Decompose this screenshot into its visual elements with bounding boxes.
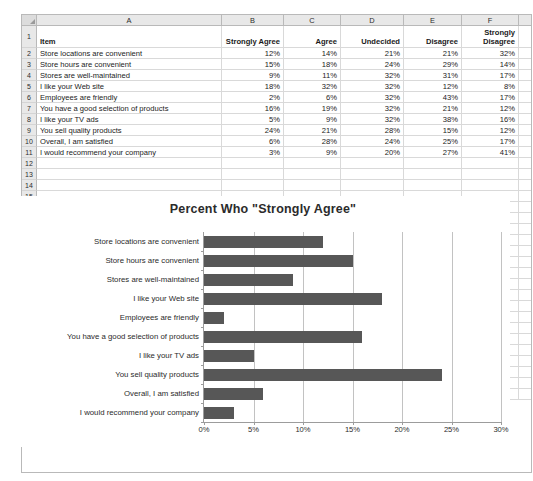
cell-d3[interactable]: 24% (341, 59, 404, 70)
row-header-7[interactable]: 7 (22, 103, 37, 114)
cell-c2[interactable]: 14% (284, 48, 341, 59)
cell-d9[interactable]: 28% (341, 125, 404, 136)
row-header-2[interactable]: 2 (22, 48, 37, 59)
cell-b5[interactable]: 18% (222, 81, 284, 92)
cell-g30[interactable] (519, 356, 532, 367)
cell-g29[interactable] (519, 345, 532, 356)
cell-d8[interactable]: 32% (341, 114, 404, 125)
cell-c7[interactable]: 19% (284, 103, 341, 114)
cell-b1[interactable]: Strongly Agree (222, 26, 284, 48)
cell-a5[interactable]: I like your Web site (37, 81, 222, 92)
cell-a3[interactable]: Store hours are convenient (37, 59, 222, 70)
cell-g22[interactable] (519, 268, 532, 279)
cell-d14[interactable] (341, 180, 404, 191)
chart-bar[interactable] (204, 388, 263, 400)
column-header-e[interactable]: E (404, 15, 462, 25)
cell-b14[interactable] (222, 180, 284, 191)
row-header-6[interactable]: 6 (22, 92, 37, 103)
column-header-b[interactable]: B (222, 15, 284, 25)
row-header-1[interactable]: 1 (22, 26, 37, 48)
bar-chart[interactable]: Percent Who "Strongly Agree" Store locat… (16, 196, 510, 447)
cell-b4[interactable]: 9% (222, 70, 284, 81)
cell-b2[interactable]: 12% (222, 48, 284, 59)
cell-e3[interactable]: 29% (404, 59, 462, 70)
cell-b6[interactable]: 2% (222, 92, 284, 103)
cell-e12[interactable] (404, 158, 462, 169)
row-header-3[interactable]: 3 (22, 59, 37, 70)
row-header-12[interactable]: 12 (22, 158, 37, 169)
cell-d12[interactable] (341, 158, 404, 169)
cell-g20[interactable] (519, 246, 532, 257)
cell-g23[interactable] (519, 279, 532, 290)
cell-g3[interactable] (519, 59, 532, 70)
chart-bar[interactable] (204, 350, 254, 362)
cell-a2[interactable]: Store locations are convenient (37, 48, 222, 59)
cell-g10[interactable] (519, 136, 532, 147)
row-header-10[interactable]: 10 (22, 136, 37, 147)
cell-g33[interactable] (519, 389, 532, 400)
cell-g27[interactable] (519, 323, 532, 334)
cell-d5[interactable]: 32% (341, 81, 404, 92)
cell-d7[interactable]: 32% (341, 103, 404, 114)
cell-b12[interactable] (222, 158, 284, 169)
cell-f7[interactable]: 12% (462, 103, 519, 114)
cell-f10[interactable]: 17% (462, 136, 519, 147)
cell-c1[interactable]: Agree (284, 26, 341, 48)
cell-c10[interactable]: 28% (284, 136, 341, 147)
cell-f2[interactable]: 32% (462, 48, 519, 59)
cell-g6[interactable] (519, 92, 532, 103)
cell-c4[interactable]: 11% (284, 70, 341, 81)
cell-f5[interactable]: 8% (462, 81, 519, 92)
cell-c12[interactable] (284, 158, 341, 169)
cell-e13[interactable] (404, 169, 462, 180)
column-header-c[interactable]: C (284, 15, 341, 25)
cell-b10[interactable]: 6% (222, 136, 284, 147)
cell-d11[interactable]: 20% (341, 147, 404, 158)
cell-e7[interactable]: 21% (404, 103, 462, 114)
cell-g15[interactable] (519, 191, 532, 202)
cell-b13[interactable] (222, 169, 284, 180)
cell-g24[interactable] (519, 290, 532, 301)
row-header-9[interactable]: 9 (22, 125, 37, 136)
cell-c11[interactable]: 9% (284, 147, 341, 158)
column-header-row[interactable]: A B C D E F (22, 15, 531, 26)
cell-f1[interactable]: Strongly Disagree (462, 26, 519, 48)
select-all-corner[interactable] (22, 15, 37, 25)
cell-a7[interactable]: You have a good selection of products (37, 103, 222, 114)
row-header-11[interactable]: 11 (22, 147, 37, 158)
cell-a4[interactable]: Stores are well-maintained (37, 70, 222, 81)
cell-g32[interactable] (519, 378, 532, 389)
cell-e11[interactable]: 27% (404, 147, 462, 158)
cell-f14[interactable] (462, 180, 519, 191)
column-header-g[interactable] (519, 15, 532, 25)
cell-f13[interactable] (462, 169, 519, 180)
cell-c6[interactable]: 6% (284, 92, 341, 103)
cell-g26[interactable] (519, 312, 532, 323)
cell-g13[interactable] (519, 169, 532, 180)
row-header-8[interactable]: 8 (22, 114, 37, 125)
cell-g19[interactable] (519, 235, 532, 246)
cell-g4[interactable] (519, 70, 532, 81)
chart-bar[interactable] (204, 255, 353, 267)
cell-e4[interactable]: 31% (404, 70, 462, 81)
cell-a1[interactable]: Item (37, 26, 222, 48)
row-header-14[interactable]: 14 (22, 180, 37, 191)
cell-g18[interactable] (519, 224, 532, 235)
chart-bar[interactable] (204, 331, 362, 343)
cell-a14[interactable] (37, 180, 222, 191)
cell-b3[interactable]: 15% (222, 59, 284, 70)
cell-c5[interactable]: 32% (284, 81, 341, 92)
chart-bar[interactable] (204, 369, 442, 381)
cell-c3[interactable]: 18% (284, 59, 341, 70)
chart-bar[interactable] (204, 312, 224, 324)
cell-a11[interactable]: I would recommend your company (37, 147, 222, 158)
cell-g31[interactable] (519, 367, 532, 378)
cell-g2[interactable] (519, 48, 532, 59)
row-header-13[interactable]: 13 (22, 169, 37, 180)
cell-e2[interactable]: 21% (404, 48, 462, 59)
chart-bar[interactable] (204, 236, 323, 248)
cell-e6[interactable]: 43% (404, 92, 462, 103)
cell-c13[interactable] (284, 169, 341, 180)
cell-g12[interactable] (519, 158, 532, 169)
row-header-5[interactable]: 5 (22, 81, 37, 92)
